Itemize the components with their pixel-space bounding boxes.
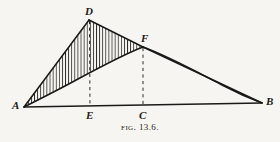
vertex-dot-d (88, 19, 90, 21)
label-point-f: F (141, 33, 148, 44)
figure-container: A B C D E F Fig. 13.6. (0, 0, 280, 142)
caption-prefix: Fig. (121, 122, 136, 132)
label-point-d: D (85, 6, 93, 17)
label-point-c: C (139, 110, 146, 121)
vertex-dot-f (142, 46, 144, 48)
label-point-b: B (266, 96, 273, 107)
hatched-region-left (18, 14, 150, 114)
label-point-e: E (86, 110, 93, 121)
label-point-a: A (12, 100, 19, 111)
figure-caption: Fig. 13.6. (0, 122, 280, 132)
caption-number: 13.6. (139, 122, 159, 132)
